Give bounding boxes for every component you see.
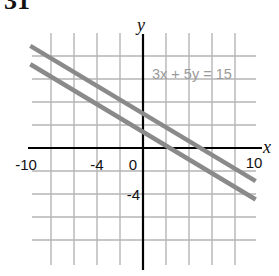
x-axis-label: x xyxy=(262,137,271,157)
x-tick-label: -10 xyxy=(15,156,37,173)
coordinate-plane: -10-4010-4xy3x + 5y = 15 xyxy=(0,0,279,276)
equation-label: 3x + 5y = 15 xyxy=(152,66,232,82)
y-tick-label: -4 xyxy=(127,186,140,203)
x-tick-label: 10 xyxy=(246,154,263,171)
x-tick-label: 0 xyxy=(129,156,137,173)
y-axis-label: y xyxy=(135,15,145,35)
x-tick-label: -4 xyxy=(90,156,103,173)
